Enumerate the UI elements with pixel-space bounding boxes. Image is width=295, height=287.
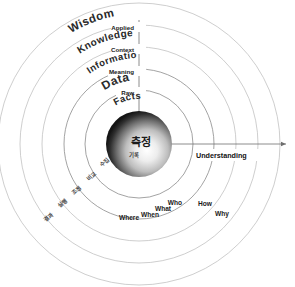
korean-label-adjust: 조정 [70, 184, 83, 197]
question-label-when: When [141, 211, 159, 218]
korean-process-labels: 수집 비교 조정 실행 결과 [42, 156, 111, 224]
korean-label-execute: 실행 [56, 197, 69, 210]
axis-label-understanding: Understanding [196, 151, 247, 160]
core-label-sub: 기록 [129, 151, 139, 159]
horizontal-axis-label: Understanding [194, 149, 264, 161]
dikw-diagram-svg: Applied Context Meaning Raw Understandin… [0, 0, 295, 287]
tier-label-facts: Facts [111, 90, 141, 107]
question-label-how: How [198, 200, 213, 207]
core-label-main: 측정 [131, 135, 151, 149]
core-sphere: 측정 기록 [106, 111, 172, 177]
korean-label-collect: 수집 [98, 156, 111, 169]
right-arrow-icon [281, 142, 286, 146]
question-label-where: Where [119, 214, 139, 221]
tier-label-wisdom: Wisdom [66, 6, 115, 34]
dikw-diagram-canvas: Applied Context Meaning Raw Understandin… [0, 0, 295, 287]
question-label-why: Why [215, 210, 229, 218]
